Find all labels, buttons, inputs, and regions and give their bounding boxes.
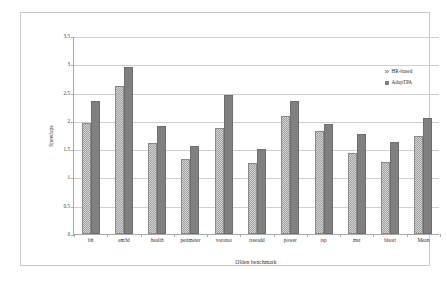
bar-group: Mean	[407, 37, 440, 234]
legend-swatch-icon	[385, 81, 389, 85]
bar-group: bh	[74, 37, 107, 234]
bar	[148, 143, 157, 234]
bar	[124, 67, 133, 234]
bar-group: health	[141, 37, 174, 234]
bar	[82, 123, 91, 234]
bar-group: perimeter	[174, 37, 207, 234]
bars-layer: bhem3dhealthperimetervoronoitreeaddpower…	[74, 37, 439, 234]
bar	[181, 159, 190, 234]
x-axis-tick-mark	[373, 234, 374, 237]
bar	[157, 126, 166, 234]
bar	[248, 163, 257, 234]
x-axis-tick-mark	[240, 234, 241, 237]
bar	[315, 131, 324, 234]
x-axis-tick-mark	[440, 234, 441, 237]
bar	[357, 134, 366, 234]
chart-frame: Speedups 00.511.522.533.5 bhem3dhealthpe…	[20, 12, 430, 266]
x-axis-tick-label: power	[274, 238, 307, 243]
x-axis-tick-label: mst	[340, 238, 373, 243]
bar-group: tsp	[307, 37, 340, 234]
y-axis-tick-label: 2	[67, 119, 70, 124]
bar	[281, 116, 290, 234]
y-axis-title: Speedups	[48, 125, 54, 146]
x-axis-tick-mark	[340, 234, 341, 237]
x-axis-tick-mark	[407, 234, 408, 237]
plot-area: 00.511.522.533.5 bhem3dhealthperimetervo…	[73, 37, 439, 235]
bar-group: power	[274, 37, 307, 234]
bar	[414, 136, 423, 234]
x-axis-tick-mark	[107, 234, 108, 237]
bar	[290, 101, 299, 235]
y-axis-tick-label: 3	[67, 63, 70, 68]
bar	[348, 153, 357, 234]
bar	[423, 118, 432, 234]
bar	[324, 124, 333, 234]
x-axis-tick-label: voronoi	[207, 238, 240, 243]
x-axis-tick-label: Mean	[407, 238, 440, 243]
x-axis-tick-label: tsp	[307, 238, 340, 243]
x-axis-tick-label: bh	[74, 238, 107, 243]
x-axis-tick-mark	[174, 234, 175, 237]
x-axis-tick-mark	[141, 234, 142, 237]
bar	[390, 142, 399, 234]
x-axis-title: Olden benchmark	[73, 259, 439, 265]
bar	[190, 146, 199, 234]
bar-group: voronoi	[207, 37, 240, 234]
bar	[215, 128, 224, 234]
y-axis-tick-label: 2.5	[64, 91, 70, 96]
legend-entry: HR-based	[385, 69, 412, 74]
legend-entry: AdapTPA	[385, 80, 412, 85]
bar	[115, 86, 124, 234]
legend-swatch-icon	[385, 70, 389, 74]
legend-label: AdapTPA	[392, 80, 413, 85]
bar	[381, 162, 390, 234]
y-axis-tick-label: 0.5	[64, 204, 70, 209]
x-axis-tick-label: health	[141, 238, 174, 243]
y-axis-tick-label: 3.5	[64, 34, 70, 39]
x-axis-tick-label: bisort	[373, 238, 406, 243]
chart-legend: HR-basedAdapTPA	[385, 69, 412, 85]
bar-group: mst	[340, 37, 373, 234]
y-axis-tick-label: 1	[67, 176, 70, 181]
bar	[257, 149, 266, 234]
x-axis-tick-mark	[74, 234, 75, 237]
x-axis-tick-mark	[307, 234, 308, 237]
x-axis-tick-mark	[207, 234, 208, 237]
legend-label: HR-based	[392, 69, 413, 74]
chart-figure: Speedups 00.511.522.533.5 bhem3dhealthpe…	[0, 0, 447, 281]
y-axis-tick-label: 1.5	[64, 148, 70, 153]
x-axis-tick-label: em3d	[107, 238, 140, 243]
x-axis-tick-mark	[274, 234, 275, 237]
bar-group: em3d	[107, 37, 140, 234]
y-axis-tick-label: 0	[67, 232, 70, 237]
bar	[224, 95, 233, 234]
x-axis-tick-label: treeadd	[240, 238, 273, 243]
bar	[91, 101, 100, 234]
bar-group: bisort	[373, 37, 406, 234]
bar-group: treeadd	[240, 37, 273, 234]
x-axis-tick-label: perimeter	[174, 238, 207, 243]
